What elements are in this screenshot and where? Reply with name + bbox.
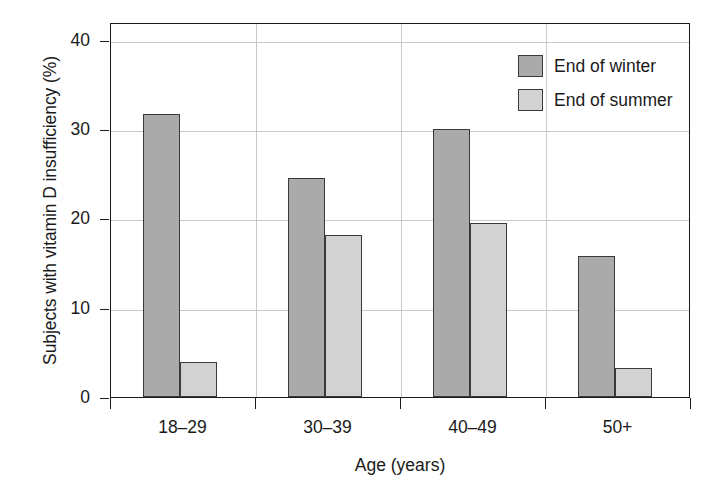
- y-tick-mark-20: [100, 219, 109, 220]
- x-tick-label-2: 40–49: [400, 419, 545, 437]
- legend-swatch-summer: [518, 89, 543, 111]
- gridline-y-20: [111, 220, 689, 221]
- gridline-x-2: [401, 24, 402, 397]
- x-tick-mark-2: [400, 398, 401, 409]
- x-tick-label-1: 30–39: [255, 419, 400, 437]
- bar-winter-1: [288, 178, 325, 397]
- legend-item-summer: End of summer: [518, 86, 673, 114]
- y-tick-mark-30: [100, 130, 109, 131]
- bar-summer-1: [325, 235, 362, 398]
- x-tick-label-0: 18–29: [110, 419, 255, 437]
- y-tick-mark-10: [100, 309, 109, 310]
- bar-winter-0: [143, 114, 180, 397]
- legend-label-winter: End of winter: [554, 56, 656, 77]
- y-tick-label-0: 0: [44, 389, 90, 407]
- y-tick-label-10: 10: [44, 300, 90, 318]
- gridline-x-1: [256, 24, 257, 397]
- bar-chart: Subjects with vitamin D insufficiency (%…: [0, 0, 706, 490]
- x-tick-mark-end: [690, 398, 691, 409]
- bar-winter-3: [578, 256, 615, 397]
- legend-swatch-winter: [518, 55, 543, 77]
- x-tick-mark-3: [545, 398, 546, 409]
- gridline-y-30: [111, 131, 689, 132]
- y-tick-label-20: 20: [44, 210, 90, 228]
- x-tick-mark-0: [110, 398, 111, 409]
- bar-summer-0: [180, 362, 217, 397]
- y-tick-label-40: 40: [44, 32, 90, 50]
- y-tick-mark-0: [100, 398, 109, 399]
- legend: End of winter End of summer: [518, 52, 673, 120]
- x-tick-label-3: 50+: [545, 419, 690, 437]
- y-tick-label-30: 30: [44, 121, 90, 139]
- bar-summer-3: [615, 368, 652, 397]
- bar-winter-2: [433, 129, 470, 397]
- x-tick-mark-1: [255, 398, 256, 409]
- bar-summer-2: [470, 223, 507, 397]
- legend-item-winter: End of winter: [518, 52, 673, 80]
- x-axis-title: Age (years): [110, 455, 690, 476]
- gridline-y-40: [111, 42, 689, 43]
- legend-label-summer: End of summer: [554, 90, 673, 111]
- y-tick-mark-40: [100, 41, 109, 42]
